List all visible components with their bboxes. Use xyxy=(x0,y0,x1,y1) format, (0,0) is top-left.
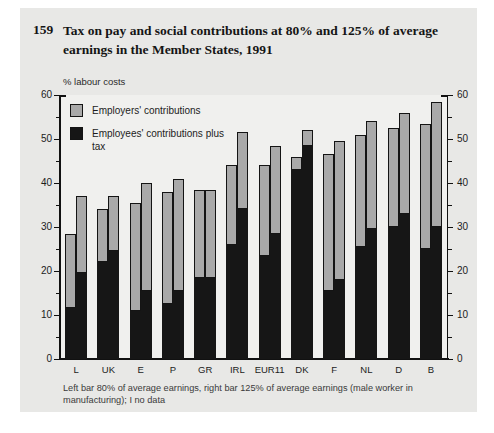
x-label-D: D xyxy=(381,364,417,375)
bar-F-80pct xyxy=(323,154,334,359)
y-tick-label-right-50: 50 xyxy=(457,133,479,144)
segment-employers-B-125pct xyxy=(431,102,442,227)
y-tick-label-left-60: 60 xyxy=(29,89,52,100)
bar-D-125pct xyxy=(399,113,410,359)
y-tick-label-left-50: 50 xyxy=(29,133,52,144)
segment-employers-GR-125pct xyxy=(205,190,216,278)
segment-employers-DK-80pct xyxy=(291,157,302,170)
segment-employees-L-80pct xyxy=(65,308,76,359)
segment-employers-P-80pct xyxy=(162,192,173,304)
y-tick-right-50 xyxy=(448,139,453,140)
figure-card: 159 Tax on pay and social contributions … xyxy=(20,8,477,412)
bar-E-80pct xyxy=(130,203,141,359)
y-tick-right-30 xyxy=(448,227,453,228)
segment-employers-E-80pct xyxy=(130,203,141,311)
segment-employers-IRL-125pct xyxy=(237,132,248,209)
segment-employers-P-125pct xyxy=(173,179,184,291)
segment-employees-E-125pct xyxy=(141,291,152,359)
employees-contributions-swatch xyxy=(70,127,83,140)
segment-employees-EUR11-125pct xyxy=(270,234,281,359)
figure-number: 159 xyxy=(33,22,59,38)
y-tick-left-0 xyxy=(54,359,59,360)
segment-employers-UK-80pct xyxy=(97,209,108,262)
bar-IRL-80pct xyxy=(226,165,237,359)
y-tick-right-25 xyxy=(448,249,452,250)
y-tick-label-right-60: 60 xyxy=(457,89,479,100)
y-tick-left-45 xyxy=(56,161,60,162)
bar-GR-80pct xyxy=(194,190,205,359)
segment-employees-DK-80pct xyxy=(291,170,302,359)
segment-employers-D-80pct xyxy=(388,128,399,227)
x-label-IRL: IRL xyxy=(219,364,255,375)
bar-B-125pct xyxy=(431,102,442,359)
y-tick-label-left-40: 40 xyxy=(29,177,52,188)
x-label-L: L xyxy=(58,364,94,375)
segment-employees-B-125pct xyxy=(431,227,442,359)
y-tick-left-15 xyxy=(56,293,60,294)
bar-IRL-125pct xyxy=(237,132,248,359)
bar-P-80pct xyxy=(162,192,173,359)
bar-NL-125pct xyxy=(366,121,377,359)
y-tick-right-20 xyxy=(448,271,453,272)
bar-DK-80pct xyxy=(291,157,302,359)
segment-employees-F-80pct xyxy=(323,291,334,359)
bar-B-80pct xyxy=(420,124,431,359)
segment-employers-EUR11-80pct xyxy=(259,165,270,255)
x-label-NL: NL xyxy=(348,364,384,375)
y-tick-left-40 xyxy=(54,183,59,184)
y-tick-label-left-10: 10 xyxy=(29,309,52,320)
x-label-GR: GR xyxy=(187,364,223,375)
segment-employees-E-80pct xyxy=(130,311,141,359)
segment-employees-IRL-80pct xyxy=(226,245,237,359)
legend-label-employees: Employees' contributions plus tax xyxy=(92,127,228,153)
y-tick-left-50 xyxy=(54,139,59,140)
segment-employers-E-125pct xyxy=(141,183,152,291)
segment-employers-L-125pct xyxy=(76,196,87,273)
bar-GR-125pct xyxy=(205,190,216,359)
bar-P-125pct xyxy=(173,179,184,359)
bar-UK-80pct xyxy=(97,209,108,359)
segment-employees-F-125pct xyxy=(334,280,345,359)
bar-EUR11-80pct xyxy=(259,165,270,359)
y-tick-label-left-20: 20 xyxy=(29,265,52,276)
bar-EUR11-125pct xyxy=(270,146,281,359)
bar-L-80pct xyxy=(65,234,76,359)
segment-employers-L-80pct xyxy=(65,234,76,309)
y-tick-right-60 xyxy=(448,95,453,96)
segment-employers-DK-125pct xyxy=(302,130,313,145)
bar-E-125pct xyxy=(141,183,152,359)
segment-employers-NL-80pct xyxy=(355,135,366,247)
segment-employees-P-125pct xyxy=(173,291,184,359)
segment-employees-GR-125pct xyxy=(205,278,216,359)
y-tick-label-right-0: 0 xyxy=(457,353,479,364)
bar-D-80pct xyxy=(388,128,399,359)
y-tick-label-right-10: 10 xyxy=(457,309,479,320)
footnote: Left bar 80% of average earnings, right … xyxy=(63,382,455,407)
segment-employers-GR-80pct xyxy=(194,190,205,278)
segment-employees-D-80pct xyxy=(388,227,399,359)
y-tick-left-60 xyxy=(54,95,59,96)
legend-item-employers: Employers' contributions xyxy=(70,104,201,117)
figure-title: Tax on pay and social contributions at 8… xyxy=(63,22,455,59)
y-tick-right-15 xyxy=(448,293,452,294)
y-tick-label-right-40: 40 xyxy=(457,177,479,188)
segment-employees-B-80pct xyxy=(420,249,431,359)
segment-employees-EUR11-80pct xyxy=(259,256,270,359)
segment-employees-NL-125pct xyxy=(366,229,377,359)
x-label-F: F xyxy=(316,364,352,375)
legend-label-employers: Employers' contributions xyxy=(92,104,201,117)
segment-employers-F-80pct xyxy=(323,154,334,290)
y-tick-right-5 xyxy=(448,337,452,338)
y-tick-label-right-30: 30 xyxy=(457,221,479,232)
employers-contributions-swatch xyxy=(70,104,83,117)
segment-employees-UK-80pct xyxy=(97,262,108,359)
segment-employees-GR-80pct xyxy=(194,278,205,359)
y-tick-left-30 xyxy=(54,227,59,228)
segment-employees-DK-125pct xyxy=(302,146,313,359)
x-label-DK: DK xyxy=(284,364,320,375)
segment-employees-L-125pct xyxy=(76,273,87,359)
y-tick-left-10 xyxy=(54,315,59,316)
segment-employees-D-125pct xyxy=(399,214,410,359)
segment-employers-EUR11-125pct xyxy=(270,146,281,234)
segment-employees-UK-125pct xyxy=(108,251,119,359)
